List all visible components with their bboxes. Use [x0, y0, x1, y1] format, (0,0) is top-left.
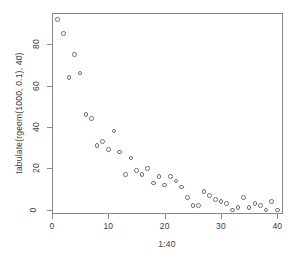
- data-point: [275, 208, 280, 213]
- data-point: [207, 193, 212, 198]
- y-tick: [47, 44, 52, 45]
- y-tick-label: 20: [31, 163, 41, 173]
- data-point: [84, 112, 89, 117]
- x-tick-label: 40: [272, 221, 282, 231]
- data-point: [269, 199, 274, 204]
- data-point: [168, 174, 173, 179]
- y-tick: [47, 210, 52, 211]
- data-point: [247, 205, 252, 210]
- data-point: [106, 147, 111, 152]
- data-point: [72, 52, 77, 57]
- data-point: [202, 189, 207, 194]
- data-point: [264, 208, 269, 213]
- data-point: [134, 168, 139, 173]
- y-tick: [47, 168, 52, 169]
- data-point: [123, 172, 128, 177]
- data-point: [117, 150, 122, 155]
- y-tick: [47, 86, 52, 87]
- x-tick: [108, 214, 109, 219]
- data-point: [151, 181, 156, 186]
- data-point: [213, 197, 218, 202]
- scatter-plot-figure: 010203040 020406080 1:40 tabulate(rgeom(…: [0, 0, 295, 267]
- y-tick-label: 40: [31, 122, 41, 132]
- data-point: [174, 179, 179, 184]
- x-tick-label: 30: [216, 221, 226, 231]
- data-point: [55, 17, 60, 22]
- x-tick: [52, 214, 53, 219]
- data-point: [179, 185, 184, 190]
- y-tick-label: 60: [31, 81, 41, 91]
- y-tick-label: 80: [31, 39, 41, 49]
- data-point: [219, 199, 224, 204]
- data-point: [241, 195, 246, 200]
- data-point: [236, 205, 241, 210]
- data-point: [112, 129, 117, 134]
- data-point: [224, 201, 229, 206]
- y-tick-label: 0: [28, 207, 38, 212]
- data-point: [185, 195, 190, 200]
- y-tick: [47, 127, 52, 128]
- data-point: [253, 201, 258, 206]
- data-point: [100, 139, 105, 144]
- data-point: [129, 156, 134, 161]
- data-point: [157, 174, 162, 179]
- data-point: [191, 203, 196, 208]
- data-point: [89, 116, 94, 121]
- x-tick-label: 10: [103, 221, 113, 231]
- data-point: [196, 203, 201, 208]
- x-tick: [221, 214, 222, 219]
- data-point: [162, 183, 167, 188]
- data-point: [67, 75, 72, 80]
- x-tick: [277, 214, 278, 219]
- x-tick-label: 0: [50, 221, 55, 231]
- data-point: [95, 143, 100, 148]
- x-tick-label: 20: [160, 221, 170, 231]
- y-axis-label: tabulate(rgeom(1000, 0.1), 40): [14, 52, 24, 173]
- data-point: [61, 31, 66, 36]
- data-point: [145, 166, 150, 171]
- x-axis-label: 1:40: [158, 239, 175, 249]
- data-point: [78, 71, 83, 76]
- x-tick: [165, 214, 166, 219]
- data-point: [140, 172, 145, 177]
- plot-data-area: [52, 13, 283, 214]
- data-point: [258, 203, 263, 208]
- data-point: [230, 208, 235, 213]
